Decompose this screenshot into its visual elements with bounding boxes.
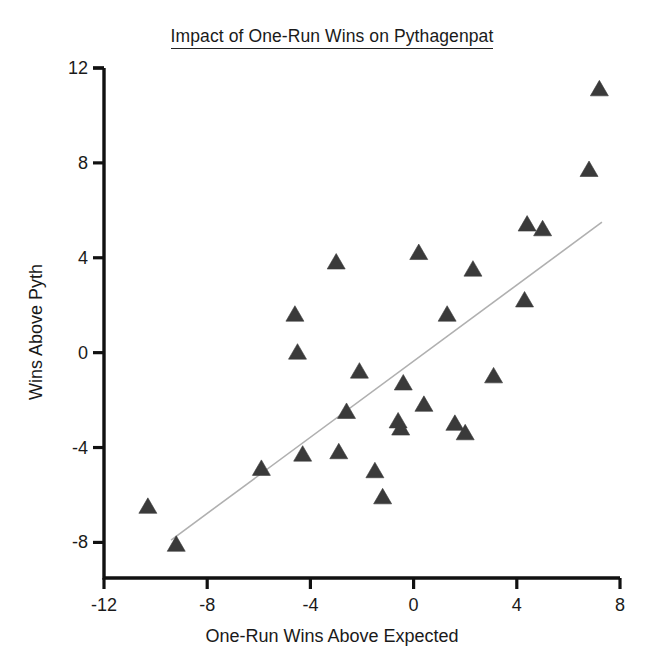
trend-line	[171, 222, 602, 540]
y-tick-label: -4	[26, 437, 88, 458]
data-point-marker	[394, 375, 412, 390]
y-tick-label: 8	[26, 152, 88, 173]
chart-figure: Impact of One-Run Wins on Pythagenpat -8…	[0, 0, 664, 666]
x-tick-label: -8	[199, 595, 215, 616]
data-point-marker	[374, 488, 392, 503]
data-point-marker	[516, 291, 534, 306]
data-point-marker	[289, 344, 307, 359]
data-point-marker	[327, 254, 345, 269]
y-axis-title: Wins Above Pyth	[26, 264, 47, 400]
data-point-marker	[330, 443, 348, 458]
data-point-marker	[252, 460, 270, 475]
data-point-marker	[485, 367, 503, 382]
data-point-marker	[518, 216, 536, 231]
data-point-marker	[580, 161, 598, 176]
axis-spines	[104, 68, 620, 578]
scatter-plot-canvas	[0, 0, 664, 666]
data-point-marker	[167, 536, 185, 551]
data-point-marker	[350, 363, 368, 378]
y-tick-label: 12	[26, 58, 88, 79]
x-tick-label: 4	[512, 595, 522, 616]
data-point-marker	[415, 396, 433, 411]
data-point-marker	[534, 220, 552, 235]
x-tick-label: 0	[409, 595, 419, 616]
data-point-marker	[446, 415, 464, 430]
data-point-marker	[366, 462, 384, 477]
data-point-marker	[286, 306, 304, 321]
data-point-marker	[464, 261, 482, 276]
data-point-marker	[410, 244, 428, 259]
x-tick-label: -4	[302, 595, 318, 616]
x-tick-label: -12	[91, 595, 117, 616]
data-point-layer	[139, 80, 609, 551]
x-tick-label: 8	[615, 595, 625, 616]
x-axis-title: One-Run Wins Above Expected	[0, 626, 664, 647]
data-point-marker	[590, 80, 608, 95]
y-tick-label: -8	[26, 532, 88, 553]
data-point-marker	[438, 306, 456, 321]
data-point-marker	[139, 498, 157, 513]
